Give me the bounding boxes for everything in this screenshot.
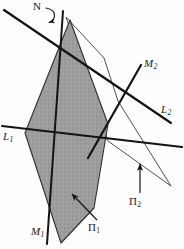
label-line-L2: L2 <box>161 104 171 115</box>
geometry-figure: N M2 L2 L1 Π2 Π1 M1 <box>0 0 184 249</box>
label-line-M2: M2 <box>144 58 157 69</box>
label-line-L1: L1 <box>3 131 13 142</box>
label-plane-1: Π1 <box>88 222 100 233</box>
label-line-M1: M1 <box>31 226 44 237</box>
label-normal-N: N <box>33 1 41 12</box>
normal-hook-arrow <box>46 8 55 23</box>
figure-canvas <box>0 0 184 249</box>
label-plane-2: Π2 <box>129 196 141 207</box>
